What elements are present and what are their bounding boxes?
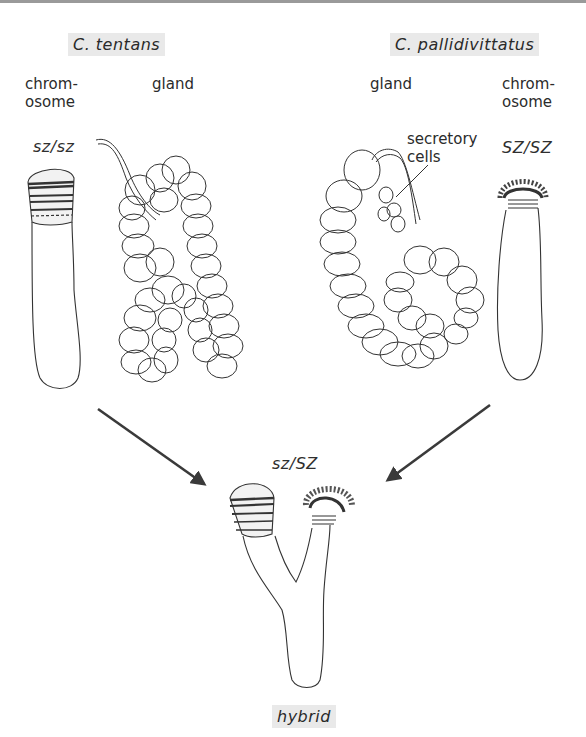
chromosome-right	[497, 182, 546, 381]
gland-left	[96, 139, 243, 382]
arrow-left-to-hybrid	[98, 409, 204, 484]
chromosome-left	[28, 169, 80, 388]
chromosome-hybrid	[230, 484, 352, 688]
arrow-right-to-hybrid	[388, 405, 490, 480]
gland-right	[320, 149, 484, 368]
diagram-drawing	[0, 0, 586, 737]
